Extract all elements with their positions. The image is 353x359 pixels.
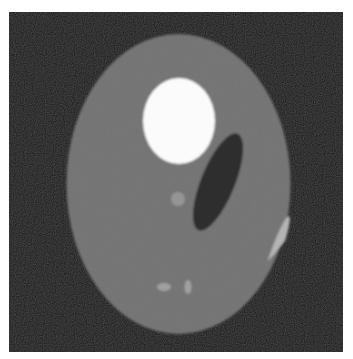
small-horizontal-ellipse <box>157 283 171 291</box>
bright-upper-ellipse <box>143 78 215 164</box>
phantom-image <box>0 0 353 359</box>
small-light-circle <box>171 192 185 206</box>
small-vertical-ellipse <box>185 280 192 294</box>
